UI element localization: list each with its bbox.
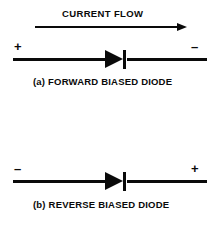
current-flow-label: CURRENT FLOW bbox=[62, 8, 143, 19]
diode-anode-triangle bbox=[105, 172, 123, 190]
forward-left-lead-wire bbox=[13, 58, 110, 61]
reverse-diode-icon bbox=[105, 170, 132, 192]
diode-anode-triangle bbox=[105, 50, 123, 68]
diode-cathode-bar bbox=[123, 172, 126, 191]
reverse-left-lead-wire bbox=[13, 180, 110, 183]
diode-bias-figure: CURRENT FLOW + – (a) FORWARD BIASED DIOD… bbox=[0, 0, 218, 230]
forward-diode-icon bbox=[105, 48, 132, 70]
arrow-head bbox=[177, 23, 187, 31]
forward-biased-caption: (a) FORWARD BIASED DIODE bbox=[33, 76, 172, 87]
reverse-biased-caption: (b) REVERSE BIASED DIODE bbox=[33, 199, 169, 210]
reverse-biased-circuit bbox=[13, 170, 207, 192]
forward-biased-circuit bbox=[13, 48, 207, 70]
diode-cathode-bar bbox=[123, 50, 126, 69]
current-flow-arrow-right-icon bbox=[35, 23, 187, 32]
forward-right-lead-wire bbox=[127, 58, 207, 61]
reverse-right-lead-wire bbox=[127, 180, 207, 183]
arrow-shaft bbox=[35, 26, 179, 28]
